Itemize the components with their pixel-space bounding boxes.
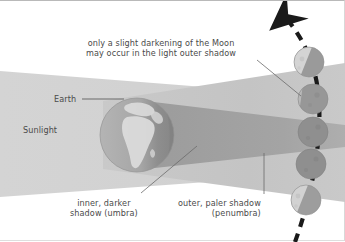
umbra-label: inner, darker shadow (umbra): [70, 198, 138, 218]
penumbra-note-text: only a slight darkening of the Moon may …: [86, 38, 236, 58]
sunlight-label: Sunlight: [23, 125, 57, 135]
umbra-label-line-2: shadow (umbra): [70, 208, 138, 218]
penumbra-label-line-2: (penumbra): [178, 208, 261, 218]
moon-5: [291, 185, 321, 215]
penumbra-label-line-1: outer, paler shadow: [178, 198, 261, 208]
earth-label: Earth: [54, 94, 76, 104]
penumbra-note-line-2: may occur in the light outer shadow: [86, 48, 236, 58]
moon-1: [294, 47, 324, 77]
penumbra-label: outer, paler shadow (penumbra): [178, 198, 261, 218]
moon-2: [298, 84, 328, 114]
moon-3: [298, 117, 328, 147]
umbra-label-line-1: inner, darker: [70, 198, 138, 208]
moon-4: [296, 149, 326, 179]
penumbra-note-line-1: only a slight darkening of the Moon: [86, 38, 236, 48]
